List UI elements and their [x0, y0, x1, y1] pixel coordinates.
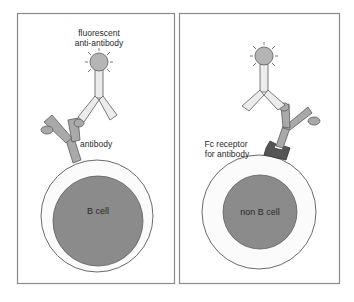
label-for-antibody: for antibody	[205, 149, 250, 159]
label-b-cell: B cell	[87, 206, 109, 216]
right-panel: Fc receptor for antibody non B cell	[180, 14, 340, 284]
label-fluorescent: fluorescent	[78, 28, 120, 38]
b-cell-nucleus	[53, 176, 143, 266]
diagram-canvas: fluorescent anti-antibody antibody B cel…	[0, 0, 354, 302]
label-anti-antibody: anti-antibody	[75, 38, 124, 48]
left-panel: fluorescent anti-antibody antibody B cel…	[18, 14, 175, 284]
label-fc-receptor: Fc receptor	[205, 139, 248, 149]
label-antibody: antibody	[80, 139, 113, 149]
label-non-b-cell: non B cell	[240, 207, 280, 217]
